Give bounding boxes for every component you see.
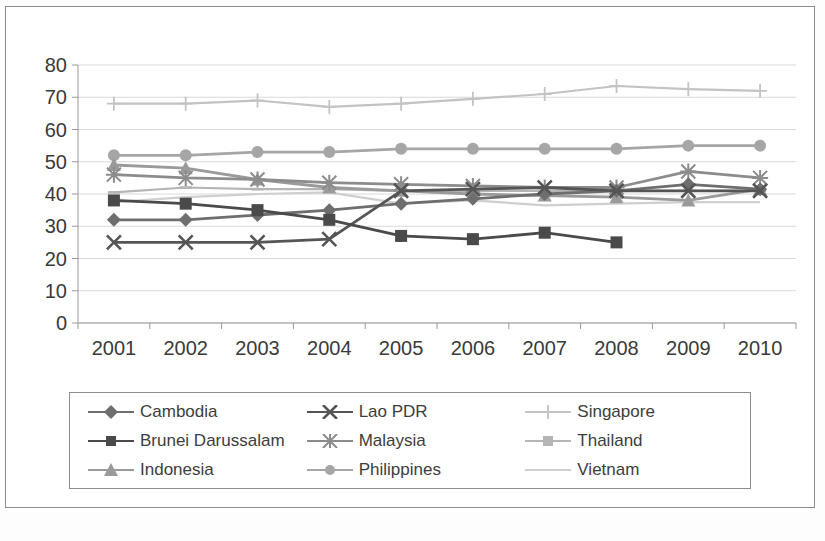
series-indonesia: [107, 158, 767, 206]
marker-star: [465, 178, 481, 194]
marker-diamond: [179, 213, 193, 227]
marker-diamond: [104, 405, 118, 419]
y-axis-label: 20: [45, 248, 67, 270]
marker-triangle: [104, 463, 118, 476]
marker-dash: [543, 436, 553, 446]
series-line: [114, 86, 760, 107]
marker-plus: [179, 97, 193, 111]
legend-item-indonesia[interactable]: Indonesia: [88, 455, 307, 484]
legend-item-brunei-darussalam[interactable]: Brunei Darussalam: [88, 426, 307, 455]
marker-plus: [541, 405, 555, 419]
x-axis-label: 2010: [738, 337, 783, 359]
marker-star: [322, 434, 338, 448]
legend-label: Philippines: [359, 461, 441, 478]
marker-square: [467, 233, 479, 245]
legend-swatch-plus-icon: [525, 405, 571, 419]
legend-grid: CambodiaLao PDRSingaporeBrunei Darussala…: [70, 393, 750, 484]
legend-item-philippines[interactable]: Philippines: [307, 455, 526, 484]
x-axis-label: 2009: [666, 337, 711, 359]
legend-marker-icon: [88, 434, 134, 448]
x-axis-label: 2005: [379, 337, 424, 359]
marker-plus: [394, 97, 408, 111]
marker-plus: [251, 93, 265, 107]
legend-item-lao-pdr[interactable]: Lao PDR: [307, 397, 526, 426]
marker-star: [250, 171, 266, 187]
legend-marker-icon: [307, 405, 353, 419]
marker-dash: [108, 191, 120, 194]
marker-circle: [395, 143, 407, 155]
y-axis-label: 70: [45, 86, 67, 108]
legend-swatch-diamond-icon: [88, 405, 134, 419]
marker-circle: [323, 146, 335, 158]
y-axis-label: 0: [56, 312, 67, 334]
marker-circle: [754, 140, 766, 152]
legend-label: Malaysia: [359, 432, 426, 449]
y-axis-label: 30: [45, 215, 67, 237]
series-singapore: [107, 79, 767, 114]
marker-plus: [681, 82, 695, 96]
legend-item-malaysia[interactable]: Malaysia: [307, 426, 526, 455]
marker-square: [106, 436, 116, 446]
marker-square: [395, 230, 407, 242]
legend-marker-icon: [88, 463, 134, 477]
legend-item-cambodia[interactable]: Cambodia: [88, 397, 307, 426]
legend-label: Thailand: [577, 432, 642, 449]
series-line: [114, 171, 760, 187]
legend-swatch-square-icon: [88, 434, 134, 448]
marker-dash: [252, 188, 264, 191]
marker-dash: [180, 186, 192, 189]
marker-circle: [539, 143, 551, 155]
chart-legend: CambodiaLao PDRSingaporeBrunei Darussala…: [69, 392, 751, 489]
marker-star: [680, 163, 696, 179]
legend-swatch-star-icon: [307, 434, 353, 448]
y-axis-label: 80: [45, 54, 67, 76]
marker-plus: [107, 97, 121, 111]
marker-circle: [325, 465, 335, 475]
series-philippines: [108, 140, 766, 162]
plot-area: 0102030405060708020012002200320042005200…: [6, 7, 814, 385]
marker-circle: [467, 143, 479, 155]
figure-frame: 0102030405060708020012002200320042005200…: [5, 6, 815, 508]
series-line: [114, 146, 760, 156]
marker-square: [252, 204, 264, 216]
marker-x: [323, 405, 337, 419]
x-axis-label: 2008: [594, 337, 639, 359]
marker-plus: [753, 84, 767, 98]
marker-plus: [538, 87, 552, 101]
legend-swatch-x-icon: [307, 405, 353, 419]
marker-star: [178, 170, 194, 186]
x-axis-label: 2003: [235, 337, 280, 359]
legend-swatch-triangle-icon: [88, 463, 134, 477]
legend-swatch-circle-icon: [307, 463, 353, 477]
marker-diamond: [394, 197, 408, 211]
marker-circle: [180, 149, 192, 161]
legend-swatch-dash-icon: [525, 434, 571, 448]
legend-marker-icon: [525, 463, 571, 477]
legend-marker-icon: [525, 405, 571, 419]
marker-square: [539, 227, 551, 239]
y-axis-label: 40: [45, 183, 67, 205]
marker-plus: [322, 100, 336, 114]
legend-item-thailand[interactable]: Thailand: [525, 426, 744, 455]
legend-label: Cambodia: [140, 403, 218, 420]
marker-circle: [252, 146, 264, 158]
x-axis-label: 2006: [451, 337, 496, 359]
legend-marker-icon: [307, 434, 353, 448]
x-axis-label: 2002: [163, 337, 208, 359]
legend-label: Indonesia: [140, 461, 214, 478]
y-axis-label: 10: [45, 280, 67, 302]
marker-star: [321, 175, 337, 191]
legend-item-vietnam[interactable]: Vietnam: [525, 455, 744, 484]
legend-swatch-none-icon: [525, 463, 571, 477]
x-axis-label: 2004: [307, 337, 352, 359]
legend-label: Brunei Darussalam: [140, 432, 285, 449]
marker-square: [180, 198, 192, 210]
marker-square: [323, 214, 335, 226]
legend-marker-icon: [88, 405, 134, 419]
marker-plus: [610, 79, 624, 93]
legend-label: Vietnam: [577, 461, 639, 478]
line-chart: 0102030405060708020012002200320042005200…: [6, 7, 814, 385]
marker-circle: [682, 140, 694, 152]
legend-item-singapore[interactable]: Singapore: [525, 397, 744, 426]
x-axis-label: 2001: [92, 337, 137, 359]
